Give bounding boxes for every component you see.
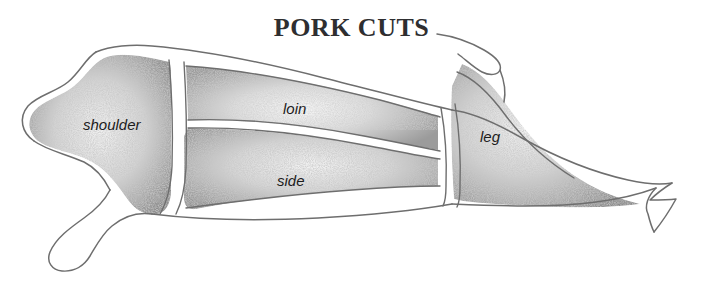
cut-region-leg: [445, 55, 650, 215]
pork-cuts-diagram: PORK CUTS: [0, 0, 703, 293]
cut-label-loin: loin: [283, 100, 306, 117]
page-title: PORK CUTS: [0, 13, 703, 43]
cut-label-leg: leg: [480, 128, 500, 145]
pig-outline-illustration: [0, 0, 703, 293]
cut-label-side: side: [277, 172, 305, 189]
cut-region-shoulder: [20, 45, 185, 225]
cut-label-shoulder: shoulder: [83, 116, 141, 133]
